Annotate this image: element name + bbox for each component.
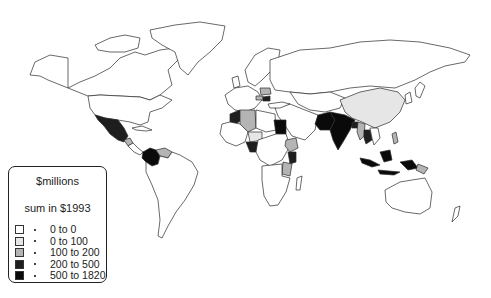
legend-swatch xyxy=(15,225,24,234)
legend-bullet-icon xyxy=(34,263,36,265)
region-central-africa xyxy=(256,134,290,166)
legend-label: 200 to 500 xyxy=(50,259,100,270)
region-poland xyxy=(260,88,271,95)
region-egypt xyxy=(274,120,286,134)
legend-swatch xyxy=(15,260,24,269)
legend-bullet-icon xyxy=(34,275,36,277)
region-cuba xyxy=(132,126,152,131)
region-indochina xyxy=(370,128,380,145)
region-hungary xyxy=(263,96,270,101)
legend-bullet-icon xyxy=(34,252,36,254)
legend-label: 0 to 0 xyxy=(50,224,76,235)
region-madagascar xyxy=(296,176,302,190)
region-tanzania xyxy=(282,162,292,176)
region-russia xyxy=(270,40,470,94)
region-arctic-islands xyxy=(95,35,140,52)
legend-swatch xyxy=(15,237,24,246)
region-philippines xyxy=(392,132,398,144)
region-indonesia xyxy=(360,150,418,175)
legend-item: 0 to 0 xyxy=(15,224,105,236)
legend-swatch xyxy=(15,271,24,280)
region-korea-japan xyxy=(405,82,425,104)
legend-label: 0 to 100 xyxy=(50,236,88,247)
legend-bullet-icon xyxy=(34,229,36,231)
region-north-africa xyxy=(256,110,276,132)
region-alaska xyxy=(30,55,68,88)
legend-title: $millions xyxy=(9,175,106,187)
legend-subtitle: sum in $1993 xyxy=(9,202,106,214)
legend-label: 500 to 1820 xyxy=(50,270,105,281)
region-czech xyxy=(256,96,263,100)
region-uk xyxy=(232,76,240,88)
legend-swatch xyxy=(15,248,24,257)
legend-item: 500 to 1820 xyxy=(15,270,105,282)
region-australia xyxy=(385,178,432,214)
map-legend: $millions sum in $1993 0 to 0 0 to 100 1… xyxy=(8,166,107,283)
legend-label: 100 to 200 xyxy=(50,247,100,258)
legend-bullet-icon xyxy=(34,240,36,242)
region-canada xyxy=(68,48,190,100)
region-kenya xyxy=(288,152,296,164)
legend-item: 100 to 200 xyxy=(15,247,105,259)
region-central-america xyxy=(128,143,143,155)
region-papua-new-guinea xyxy=(416,164,428,174)
region-new-zealand xyxy=(452,206,460,222)
region-bangladesh xyxy=(352,122,358,128)
legend-items: 0 to 0 0 to 100 100 to 200 200 to 500 50… xyxy=(15,224,105,282)
